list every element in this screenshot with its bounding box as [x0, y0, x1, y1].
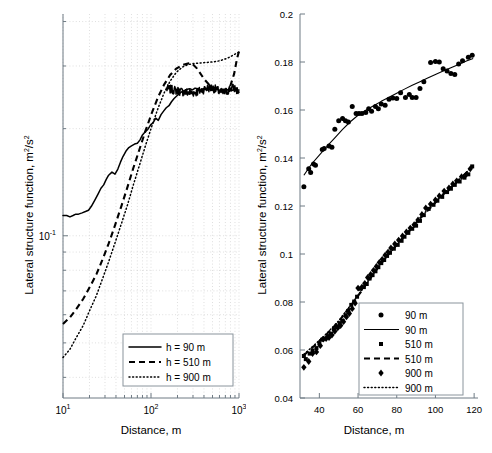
right-y-tick: 0.16: [275, 105, 294, 116]
data-point-circle: [456, 61, 461, 66]
left-legend-label: h = 90 m: [166, 342, 205, 353]
data-point-square: [355, 295, 359, 299]
right-y-tick: 0.14: [275, 153, 294, 164]
left-x-tick-labels: 101102103: [55, 403, 246, 416]
right-series-1: [304, 58, 473, 175]
data-point-circle: [350, 104, 355, 109]
data-point-circle: [313, 163, 318, 168]
left-y-axis-title-tail: /s: [23, 139, 35, 148]
data-point-circle: [346, 120, 351, 125]
right-linear-panel: 406080100120 0.040.060.080.10.120.140.16…: [246, 0, 492, 453]
data-point-diamond: [301, 364, 306, 371]
right-y-axis-title: Lateral structure function, m2/s2: [256, 135, 268, 294]
data-point-circle: [379, 313, 384, 318]
left-legend-label: h = 900 m: [166, 372, 211, 383]
data-point-circle: [376, 106, 381, 111]
left-plot-svg: 101102103 10-1 Distance, m Lateral struc…: [0, 0, 246, 453]
right-legend-label: 90 m: [405, 325, 427, 336]
data-point-circle: [332, 127, 337, 132]
left-curves: [63, 51, 239, 357]
left-loglog-panel: 101102103 10-1 Distance, m Lateral struc…: [0, 0, 246, 453]
data-point-circle: [403, 95, 408, 100]
right-x-axis-title: Distance, m: [344, 424, 405, 436]
right-y-tick: 0.12: [275, 201, 294, 212]
right-y-axis-title-main: Lateral structure function, m: [256, 152, 268, 295]
figure-root: 101102103 10-1 Distance, m Lateral struc…: [0, 0, 492, 453]
right-y-tick: 0.06: [275, 345, 294, 356]
data-point-circle: [414, 95, 419, 100]
right-plot-svg: 406080100120 0.040.060.080.10.120.140.16…: [246, 0, 492, 453]
right-legend-label: 900 m: [405, 368, 433, 379]
data-point-circle: [301, 184, 306, 189]
left-legend-label: h = 510 m: [166, 357, 211, 368]
data-point-circle: [398, 90, 403, 95]
left-y-axis-title-exp2: 2: [23, 135, 30, 139]
data-point-circle: [308, 170, 313, 175]
right-y-tick: 0.18: [275, 57, 294, 68]
right-x-tick: 120: [466, 404, 482, 415]
left-x-tick: 102: [143, 403, 158, 416]
right-legend-label: 900 m: [405, 383, 433, 394]
left-x-tick: 103: [231, 403, 246, 416]
left-y-axis-title: Lateral structure function, m2/s2: [23, 135, 35, 294]
data-point-circle: [383, 103, 388, 108]
left-x-tick: 101: [55, 403, 70, 416]
right-y-tick: 0.1: [280, 249, 293, 260]
data-point-circle: [460, 58, 465, 63]
right-y-tick: 0.08: [275, 297, 294, 308]
data-point-circle: [421, 79, 426, 84]
left-x-axis-title: Distance, m: [121, 424, 182, 436]
data-point-circle: [437, 60, 442, 65]
right-y-axis-title-exp2: 2: [256, 135, 263, 139]
data-point-circle: [428, 60, 433, 65]
data-point-circle: [452, 72, 457, 77]
left-y-axis-title-main: Lateral structure function, m: [23, 152, 35, 295]
svg-text:Lateral structure function, m2: Lateral structure function, m2/s2: [23, 135, 35, 294]
left-y-tick-labels: 10-1: [39, 229, 56, 242]
right-legend-label: 90 m: [405, 310, 427, 321]
data-point-circle: [322, 146, 327, 151]
left-legend[interactable]: h = 90 mh = 510 mh = 900 m: [123, 334, 233, 386]
right-x-tick: 80: [391, 404, 402, 415]
data-point-square: [379, 342, 383, 346]
right-legend[interactable]: 90 m90 m510 m510 m900 m900 m: [359, 303, 463, 395]
right-y-axis-title-tail: /s: [256, 139, 268, 148]
right-x-tick: 60: [353, 404, 364, 415]
right-legend-label: 510 m: [405, 339, 433, 350]
right-y-tick: 0.04: [275, 393, 294, 404]
right-x-tick: 40: [314, 404, 325, 415]
right-x-tick: 100: [428, 404, 444, 415]
right-y-tick-labels: 0.040.060.080.10.120.140.160.180.2: [275, 9, 294, 404]
left-y-tick: 10-1: [39, 229, 56, 242]
right-y-tick: 0.2: [280, 9, 293, 20]
right-x-tick-labels: 406080100120: [314, 404, 482, 415]
right-legend-label: 510 m: [405, 354, 433, 365]
svg-text:Lateral structure function, m2: Lateral structure function, m2/s2: [256, 135, 268, 294]
data-point-circle: [394, 96, 399, 101]
data-point-circle: [369, 109, 374, 114]
data-point-circle: [417, 86, 422, 91]
data-point-circle: [329, 145, 334, 150]
data-point-circle: [470, 53, 475, 58]
